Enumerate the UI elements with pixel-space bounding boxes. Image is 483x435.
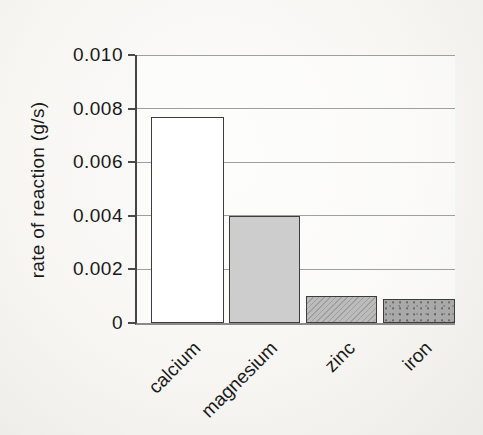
y-tick-mark xyxy=(128,268,135,270)
y-tick-mark xyxy=(128,161,135,163)
y-tick-label-0.010: 0.010 xyxy=(73,44,123,66)
y-axis-title: rate of reaction (g/s) xyxy=(27,102,49,279)
bar-magnesium xyxy=(229,216,300,323)
y-tick-mark xyxy=(128,322,135,324)
plot-area xyxy=(135,55,455,325)
bar-calcium xyxy=(151,117,224,323)
x-label-magnesium: magnesium xyxy=(198,338,282,422)
y-tick-label-0.002: 0.002 xyxy=(73,258,123,280)
gridline-0.01 xyxy=(137,55,455,56)
y-tick-label-0.004: 0.004 xyxy=(73,205,123,227)
chart-canvas: rate of reaction (g/s) 0.0100.0080.0060.… xyxy=(0,0,483,435)
y-tick-mark xyxy=(128,215,135,217)
x-label-zinc: zinc xyxy=(321,338,359,376)
x-label-iron: iron xyxy=(400,338,437,375)
y-tick-mark xyxy=(128,54,135,56)
bar-iron xyxy=(383,299,455,323)
y-tick-mark xyxy=(128,108,135,110)
y-tick-label-0.006: 0.006 xyxy=(73,151,123,173)
x-label-calcium: calcium xyxy=(145,338,205,398)
y-tick-label-0: 0 xyxy=(112,312,123,334)
y-tick-label-0.008: 0.008 xyxy=(73,98,123,120)
bar-zinc xyxy=(306,296,377,323)
gridline-0.008 xyxy=(137,108,455,109)
